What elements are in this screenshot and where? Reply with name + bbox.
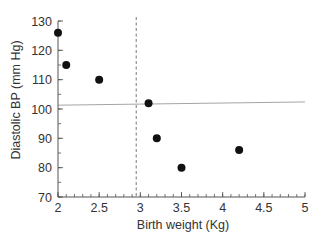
y-tick-label: 90 — [38, 132, 52, 146]
y-tick-label: 110 — [32, 73, 52, 87]
x-tick-label: 5 — [302, 201, 309, 215]
data-point — [62, 61, 70, 69]
y-tick-label: 120 — [31, 44, 52, 58]
x-tick-label: 4 — [219, 201, 226, 215]
y-tick-label: 80 — [38, 161, 52, 175]
data-point — [95, 76, 103, 84]
x-tick-label: 2.5 — [90, 201, 107, 215]
data-point — [235, 146, 243, 154]
scatter-chart: 22.533.544.55 708090100110120130 Birth w… — [0, 0, 326, 243]
data-point — [153, 134, 161, 142]
x-tick-label: 3 — [137, 201, 144, 215]
y-tick-label: 100 — [31, 103, 52, 117]
x-tick-label: 2 — [55, 201, 62, 215]
x-tick-label: 3.5 — [173, 201, 190, 215]
horizontal-reference-line — [58, 102, 305, 105]
data-point — [145, 99, 153, 107]
x-axis-title: Birth weight (Kg) — [137, 218, 229, 232]
data-point — [178, 164, 186, 172]
y-tick-label: 130 — [31, 15, 52, 29]
x-axis-ticks: 22.533.544.55 — [55, 192, 309, 215]
x-tick-label: 4.5 — [255, 201, 272, 215]
y-tick-label: 70 — [38, 191, 52, 205]
data-point — [54, 29, 62, 37]
data-points — [54, 29, 243, 172]
y-axis-title: Diastolic BP (mm Hg) — [9, 40, 23, 159]
